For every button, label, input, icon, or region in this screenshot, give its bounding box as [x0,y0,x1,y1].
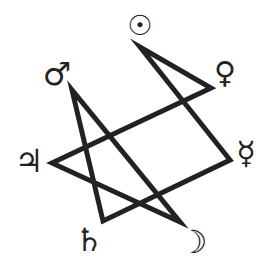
mercury-symbol-icon: ☿ [231,137,261,169]
moon-symbol-icon: ☽ [178,226,208,258]
sun-symbol-icon: ☉ [125,12,155,40]
saturn-symbol-icon: ♄ [74,224,104,256]
jupiter-symbol-icon: ♃ [14,145,44,177]
mars-symbol-icon: ♂ [40,58,74,90]
heptagram-star [52,47,230,222]
venus-symbol-icon: ♀ [210,58,240,88]
